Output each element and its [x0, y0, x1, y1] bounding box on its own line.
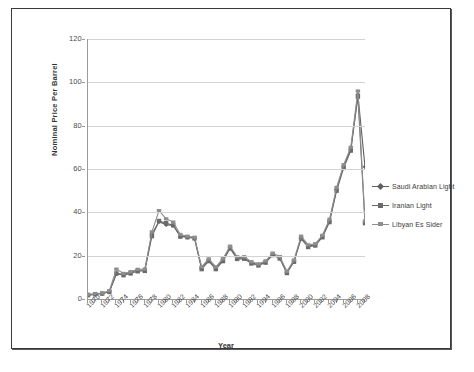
data-point [171, 220, 175, 223]
gridline-40 [88, 212, 365, 213]
data-point [128, 270, 132, 273]
legend-marker-icon [372, 182, 389, 191]
gridline-20 [88, 256, 365, 257]
gridline-80 [88, 126, 365, 127]
data-point [320, 234, 324, 237]
y-tick-mark-80 [82, 126, 85, 127]
gridline-120 [88, 39, 365, 40]
x-axis-tick-labels: 1970197219741976197819801982198419861988… [87, 304, 377, 344]
series-line [88, 91, 365, 294]
legend-label: Iranian Light [392, 202, 432, 209]
legend-marker-icon [372, 220, 389, 229]
data-point [164, 217, 168, 220]
legend-item-3[interactable]: Libyan Es Sider [372, 215, 450, 234]
y-tick-label-60: 60 [42, 164, 82, 173]
data-point [334, 186, 338, 189]
legend-marker-icon [372, 201, 389, 210]
data-point [143, 268, 147, 271]
series-line [88, 94, 365, 295]
gridline-60 [88, 169, 365, 170]
y-tick-label-100: 100 [42, 77, 82, 86]
y-tick-mark-100 [82, 82, 85, 83]
data-point [192, 236, 196, 239]
data-point [88, 293, 90, 296]
y-tick-mark-20 [82, 256, 85, 257]
y-tick-label-40: 40 [42, 207, 82, 216]
data-point [256, 262, 260, 265]
data-point [114, 268, 118, 271]
y-axis-ticks: 020406080100120 [40, 39, 82, 299]
legend-label: Libyan Es Sider [392, 221, 443, 228]
data-point [136, 268, 140, 271]
series-3 [88, 89, 365, 295]
data-point [214, 265, 218, 268]
data-point [292, 258, 296, 261]
series-1 [88, 92, 365, 297]
y-tick-mark-40 [82, 212, 85, 213]
y-tick-mark-0 [82, 299, 85, 300]
data-point [249, 260, 253, 263]
data-point [341, 163, 345, 166]
data-point [150, 230, 154, 233]
data-point [263, 259, 267, 262]
data-point [199, 265, 203, 268]
plot-area [87, 39, 365, 299]
data-point [349, 146, 353, 149]
y-tick-mark-120 [82, 39, 85, 40]
data-point [327, 218, 331, 221]
data-point [228, 245, 232, 248]
data-point [221, 257, 225, 260]
legend-item-2[interactable]: Iranian Light [372, 196, 450, 215]
data-point [157, 219, 161, 223]
data-point [185, 235, 189, 238]
data-point [313, 242, 317, 245]
legend-item-1[interactable]: Saudi Arabian Light [372, 177, 450, 196]
data-point [164, 221, 168, 225]
y-tick-label-120: 120 [42, 34, 82, 43]
x-axis-title: Year [87, 341, 365, 350]
data-point [299, 235, 303, 238]
data-point [285, 270, 289, 273]
y-tick-label-20: 20 [42, 251, 82, 260]
y-tick-mark-60 [82, 169, 85, 170]
gridline-100 [88, 82, 365, 83]
chart-legend: Saudi Arabian LightIranian LightLibyan E… [372, 177, 450, 234]
data-point [100, 291, 104, 294]
page-frame: Nominal Price Per Barrel 020406080100120… [11, 8, 451, 349]
chart-canvas: Nominal Price Per Barrel 020406080100120… [12, 9, 450, 348]
y-tick-label-0: 0 [42, 294, 82, 303]
y-tick-label-80: 80 [42, 121, 82, 130]
data-point [306, 243, 310, 246]
data-point [356, 89, 360, 92]
data-point [121, 272, 125, 275]
data-point [207, 257, 211, 260]
data-point [178, 233, 182, 236]
data-point [363, 219, 365, 222]
legend-label: Saudi Arabian Light [392, 183, 455, 190]
data-point [270, 251, 274, 254]
